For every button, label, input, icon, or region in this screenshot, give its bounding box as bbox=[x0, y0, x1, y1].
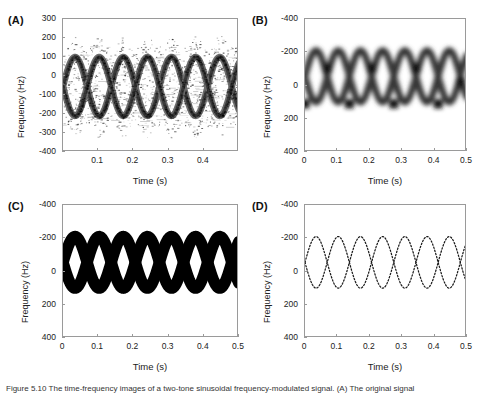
tick-mark bbox=[168, 334, 169, 337]
tick-mark bbox=[62, 37, 65, 38]
panel-c-canvas bbox=[63, 205, 238, 337]
panel-b-ytick: 0 bbox=[264, 80, 298, 90]
panel-d-ytick: -400 bbox=[264, 199, 298, 209]
tick-mark bbox=[304, 304, 307, 305]
panel-c-xtick: 0.3 bbox=[154, 341, 182, 351]
panel-d-ytick: 0 bbox=[264, 266, 298, 276]
tick-mark bbox=[369, 148, 370, 151]
figure-container: (A) Frequency (Hz) Time (s) (B) Frequenc… bbox=[0, 0, 487, 393]
figure-caption: Figure 5.10 The time-frequency images of… bbox=[6, 384, 484, 393]
panel-c-xlabel: Time (s) bbox=[100, 361, 200, 372]
panel-a-ytick: 0 bbox=[22, 70, 56, 80]
panel-d-xtick: 0 bbox=[290, 341, 318, 351]
tick-mark bbox=[132, 148, 133, 151]
tick-mark bbox=[62, 18, 65, 19]
tick-mark bbox=[203, 334, 204, 337]
panel-a-xtick: 0.1 bbox=[83, 155, 111, 165]
tick-mark bbox=[62, 237, 65, 238]
panel-a-ytick: -200 bbox=[22, 108, 56, 118]
panel-b-ytick: -400 bbox=[264, 13, 298, 23]
panel-d-plot-area bbox=[304, 204, 466, 337]
panel-a-ytick: -300 bbox=[22, 127, 56, 137]
panel-c-xtick: 0 bbox=[48, 341, 76, 351]
panel-a-plot-area bbox=[62, 18, 238, 151]
panel-d-canvas bbox=[305, 205, 466, 337]
panel-a-xtick: 0.3 bbox=[154, 155, 182, 165]
panel-c-ytick: -400 bbox=[22, 199, 56, 209]
tick-mark bbox=[97, 148, 98, 151]
tick-mark bbox=[304, 334, 305, 337]
tick-mark bbox=[304, 51, 307, 52]
tick-mark bbox=[304, 337, 307, 338]
panel-d-xtick: 0.2 bbox=[355, 341, 383, 351]
tick-mark bbox=[62, 94, 65, 95]
panel-b-xtick: 0 bbox=[290, 155, 318, 165]
tick-mark bbox=[62, 337, 65, 338]
tick-mark bbox=[62, 151, 65, 152]
tick-mark bbox=[369, 334, 370, 337]
tick-mark bbox=[62, 113, 65, 114]
tick-mark bbox=[62, 132, 65, 133]
panel-d-ytick: -200 bbox=[264, 232, 298, 242]
tick-mark bbox=[336, 148, 337, 151]
tick-mark bbox=[62, 204, 65, 205]
panel-b-ytick: -200 bbox=[264, 46, 298, 56]
panel-d-xtick: 0.5 bbox=[452, 341, 480, 351]
tick-mark bbox=[466, 148, 467, 151]
panel-a-ytick: 100 bbox=[22, 51, 56, 61]
tick-mark bbox=[168, 148, 169, 151]
tick-mark bbox=[203, 148, 204, 151]
panel-d-ytick: 200 bbox=[264, 299, 298, 309]
tick-mark bbox=[62, 334, 63, 337]
panel-b-ytick: 200 bbox=[264, 113, 298, 123]
tick-mark bbox=[401, 148, 402, 151]
tick-mark bbox=[304, 85, 307, 86]
panel-c-xtick: 0.1 bbox=[83, 341, 111, 351]
tick-mark bbox=[304, 148, 305, 151]
tick-mark bbox=[62, 304, 65, 305]
panel-c-ytick: 200 bbox=[22, 299, 56, 309]
tick-mark bbox=[304, 151, 307, 152]
panel-a-ytick: 200 bbox=[22, 32, 56, 42]
tick-mark bbox=[434, 334, 435, 337]
panel-b-xtick: 0.2 bbox=[355, 155, 383, 165]
tick-mark bbox=[304, 18, 307, 19]
panel-b-plot-area bbox=[304, 18, 466, 151]
tick-mark bbox=[304, 271, 307, 272]
panel-d-xtick: 0.4 bbox=[420, 341, 448, 351]
tick-mark bbox=[304, 237, 307, 238]
tick-mark bbox=[62, 271, 65, 272]
panel-c-xtick: 0.4 bbox=[189, 341, 217, 351]
tick-mark bbox=[62, 56, 65, 57]
panel-c-plot-area bbox=[62, 204, 238, 337]
panel-a-ytick: 300 bbox=[22, 13, 56, 23]
tick-mark bbox=[62, 75, 65, 76]
panel-c-ytick: -200 bbox=[22, 232, 56, 242]
tick-mark bbox=[132, 334, 133, 337]
tick-mark bbox=[97, 334, 98, 337]
panel-a-xlabel: Time (s) bbox=[100, 175, 200, 186]
tick-mark bbox=[336, 334, 337, 337]
panel-c-xtick: 0.5 bbox=[224, 341, 252, 351]
panel-b-xtick: 0.4 bbox=[420, 155, 448, 165]
panel-d-xlabel: Time (s) bbox=[335, 361, 435, 372]
panel-c-xtick: 0.2 bbox=[118, 341, 146, 351]
panel-a-canvas bbox=[63, 19, 238, 151]
tick-mark bbox=[304, 204, 307, 205]
tick-mark bbox=[466, 334, 467, 337]
panel-b-xtick: 0.5 bbox=[452, 155, 480, 165]
panel-b-xtick: 0.1 bbox=[322, 155, 350, 165]
tick-mark bbox=[401, 334, 402, 337]
panel-a-xtick: 0.2 bbox=[118, 155, 146, 165]
panel-b-canvas bbox=[305, 19, 466, 151]
tick-mark bbox=[238, 334, 239, 337]
panel-a-ytick: -400 bbox=[22, 146, 56, 156]
panel-a-ytick: -100 bbox=[22, 89, 56, 99]
tick-mark bbox=[434, 148, 435, 151]
panel-d-xtick: 0.3 bbox=[387, 341, 415, 351]
panel-b-xlabel: Time (s) bbox=[335, 175, 435, 186]
panel-d-xtick: 0.1 bbox=[322, 341, 350, 351]
panel-b-xtick: 0.3 bbox=[387, 155, 415, 165]
panel-c-ytick: 0 bbox=[22, 266, 56, 276]
panel-a-xtick: 0.4 bbox=[189, 155, 217, 165]
